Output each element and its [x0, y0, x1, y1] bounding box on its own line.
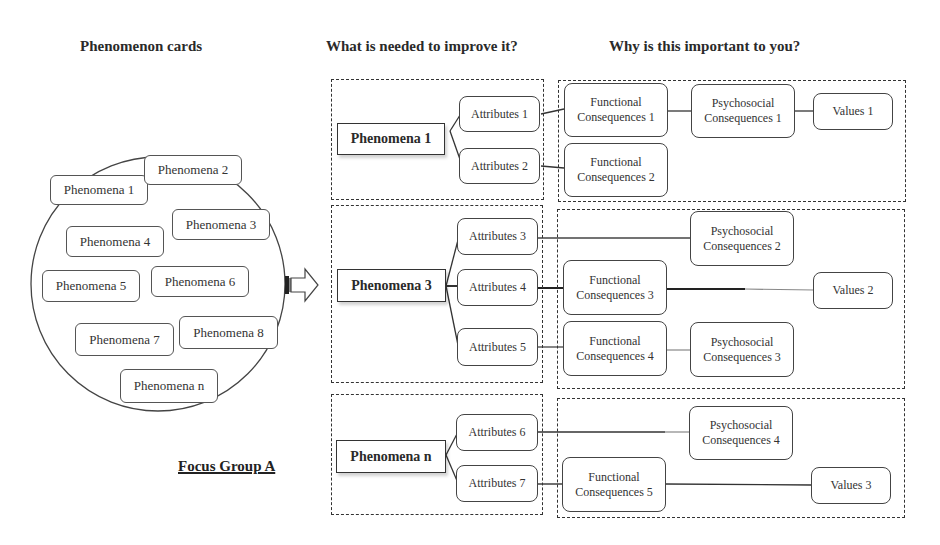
values-box-3[interactable]: Values 3	[811, 467, 891, 504]
psychosocial-consequence-1[interactable]: PsychosocialConsequences 1	[691, 84, 795, 138]
functional-consequence-3[interactable]: FunctionalConsequences 3	[563, 260, 667, 315]
values-box-2[interactable]: Values 2	[813, 272, 893, 309]
card-phenomena-5[interactable]: Phenomena 5	[42, 270, 140, 302]
card-phenomena-4[interactable]: Phenomena 4	[66, 226, 164, 257]
psychosocial-consequence-2[interactable]: PsychosocialConsequences 2	[690, 211, 794, 266]
phenomenon-box-1[interactable]: Phenomena 1	[337, 123, 445, 155]
heading-phenomenon-cards: Phenomenon cards	[80, 38, 202, 55]
attribute-box-7[interactable]: Attributes 7	[456, 465, 538, 502]
card-phenomena-6[interactable]: Phenomena 6	[151, 266, 249, 297]
heading-improve: What is needed to improve it?	[326, 38, 518, 55]
card-phenomena-3[interactable]: Phenomena 3	[172, 209, 270, 240]
attribute-box-5[interactable]: Attributes 5	[457, 328, 538, 366]
card-phenomena-7[interactable]: Phenomena 7	[75, 323, 174, 356]
focus-group-label: Focus Group A	[178, 458, 275, 475]
attribute-box-2[interactable]: Attributes 2	[459, 148, 540, 184]
card-phenomena-1[interactable]: Phenomena 1	[50, 175, 148, 205]
functional-consequence-1[interactable]: FunctionalConsequences 1	[564, 83, 668, 137]
card-phenomena-n[interactable]: Phenomena n	[120, 369, 218, 403]
attribute-box-3[interactable]: Attributes 3	[457, 218, 538, 255]
arrow-right-icon	[285, 269, 318, 301]
values-box-1[interactable]: Values 1	[813, 93, 893, 130]
card-phenomena-2[interactable]: Phenomena 2	[144, 155, 242, 185]
card-phenomena-8[interactable]: Phenomena 8	[179, 316, 278, 349]
attribute-box-4[interactable]: Attributes 4	[457, 269, 538, 306]
phenomenon-box-n[interactable]: Phenomena n	[336, 440, 446, 473]
functional-consequence-5[interactable]: FunctionalConsequences 5	[562, 457, 666, 512]
attribute-box-1[interactable]: Attributes 1	[459, 96, 540, 132]
functional-consequence-2[interactable]: FunctionalConsequences 2	[564, 143, 668, 197]
heading-important: Why is this important to you?	[609, 38, 800, 55]
phenomenon-box-3[interactable]: Phenomena 3	[337, 269, 446, 302]
functional-consequence-4[interactable]: FunctionalConsequences 4	[563, 321, 667, 376]
psychosocial-consequence-3[interactable]: PsychosocialConsequences 3	[690, 322, 794, 377]
attribute-box-6[interactable]: Attributes 6	[456, 414, 538, 451]
psychosocial-consequence-4[interactable]: PsychosocialConsequences 4	[689, 406, 793, 460]
